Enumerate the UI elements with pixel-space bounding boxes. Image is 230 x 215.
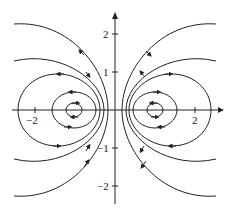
phase-portrait: −2 2 2 1 −1 −2 xyxy=(0,0,230,215)
x-axis xyxy=(12,107,224,113)
x-axis-arrow-icon xyxy=(218,107,224,113)
y-tick-label: 2 xyxy=(103,28,109,40)
y-axis xyxy=(112,12,118,204)
y-axis-arrow-icon xyxy=(112,12,118,19)
x-tick-label: −2 xyxy=(26,114,38,126)
y-tick-label: −1 xyxy=(97,142,109,154)
y-tick-label: 1 xyxy=(103,66,109,78)
y-tick-label: −2 xyxy=(97,180,109,192)
x-tick-label: 2 xyxy=(192,114,198,126)
